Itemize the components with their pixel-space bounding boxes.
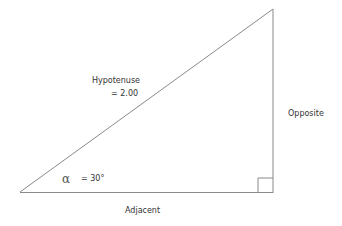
hypotenuse-value: = 2.00: [111, 90, 138, 98]
right-angle-marker: [258, 178, 273, 193]
adjacent-label: Adjacent: [125, 207, 160, 215]
opposite-label: Opposite: [288, 110, 324, 118]
alpha-icon: α: [62, 173, 70, 185]
hypotenuse-line: [20, 9, 273, 192]
hypotenuse-label: Hypotenuse: [92, 77, 140, 85]
angle-value: = 30°: [81, 175, 104, 183]
